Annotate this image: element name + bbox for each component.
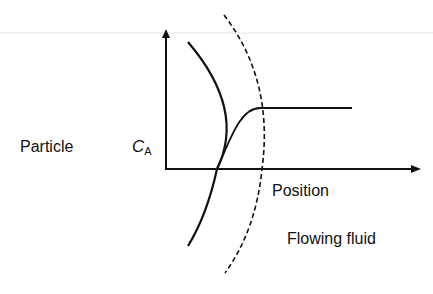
- concentration-subscript: A: [144, 145, 151, 157]
- flowing-fluid-label: Flowing fluid: [287, 231, 376, 247]
- position-axis-label: Position: [272, 183, 329, 199]
- concentration-axis-label: CA: [132, 138, 152, 157]
- particle-surface-arc: [188, 42, 227, 246]
- boundary-layer-dashed-arc: [224, 15, 264, 273]
- concentration-symbol: C: [132, 137, 144, 156]
- particle-label: Particle: [20, 139, 73, 155]
- x-axis-arrow-icon: [411, 165, 421, 173]
- concentration-profile-curve: [217, 108, 352, 169]
